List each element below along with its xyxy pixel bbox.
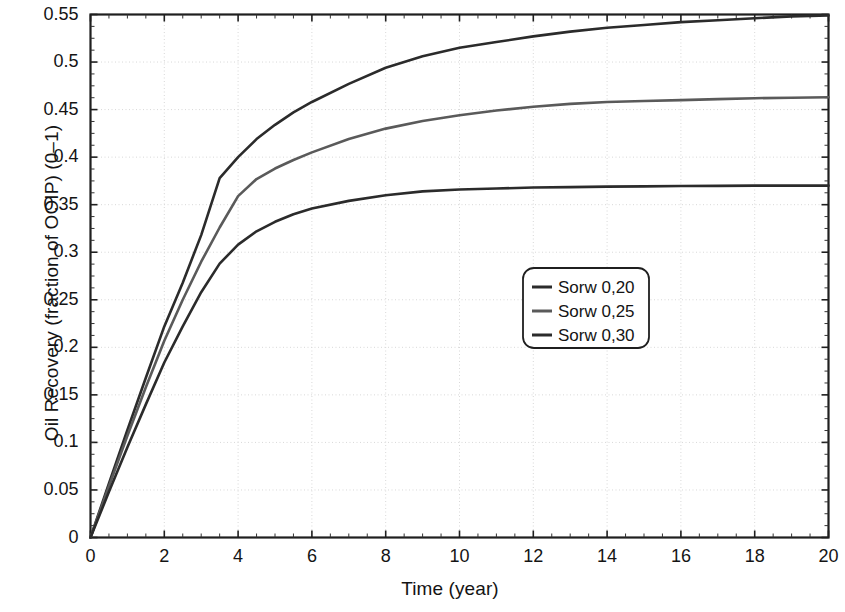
x-tick-label: 8 (361, 546, 411, 567)
series-line-2 (91, 97, 829, 537)
legend-label-3: Sorw 0,30 (558, 326, 635, 345)
x-tick-label: 16 (656, 546, 706, 567)
y-tick-label: 0.4 (9, 146, 79, 167)
x-tick-label: 0 (66, 546, 116, 567)
x-tick-label: 6 (287, 546, 337, 567)
y-tick-label: 0.35 (9, 194, 79, 215)
x-tick-label: 12 (508, 546, 558, 567)
y-tick-label: 0.1 (9, 431, 79, 452)
x-axis-title: Time (year) (330, 578, 570, 600)
y-tick-label: 0.55 (9, 4, 79, 25)
legend-label-1: Sorw 0,20 (558, 278, 635, 297)
x-tick-label: 18 (730, 546, 780, 567)
y-axis-title: Oil Recovery (fraction of OOIP) (0–1) (41, 73, 63, 493)
y-tick-label: 0.15 (9, 384, 79, 405)
y-tick-label: 0.05 (9, 479, 79, 500)
x-tick-label: 14 (582, 546, 632, 567)
legend-label-2: Sorw 0,25 (558, 302, 635, 321)
gridlines (91, 15, 829, 538)
y-tick-label: 0.45 (9, 99, 79, 120)
x-tick-label: 10 (435, 546, 485, 567)
chart-legend: Sorw 0,20Sorw 0,25Sorw 0,30 (523, 268, 649, 348)
x-tick-label: 20 (804, 546, 845, 567)
chart-canvas: Sorw 0,20Sorw 0,25Sorw 0,30 (0, 0, 845, 612)
chart-figure: Sorw 0,20Sorw 0,25Sorw 0,30 Oil Recovery… (0, 0, 845, 612)
y-tick-label: 0.5 (9, 51, 79, 72)
y-tick-label: 0.2 (9, 336, 79, 357)
x-tick-label: 4 (213, 546, 263, 567)
x-tick-label: 2 (139, 546, 189, 567)
y-tick-label: 0.25 (9, 289, 79, 310)
y-tick-label: 0 (9, 527, 79, 548)
y-tick-label: 0.3 (9, 241, 79, 262)
